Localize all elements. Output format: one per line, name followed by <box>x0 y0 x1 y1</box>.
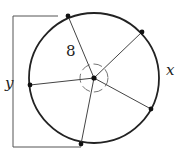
point-left <box>28 83 33 88</box>
point-top <box>66 14 71 19</box>
radius-lower-right <box>94 78 151 109</box>
arc-label: x <box>166 61 175 79</box>
point-bottom <box>79 142 84 147</box>
center-point <box>91 75 96 80</box>
bracket-label: y <box>4 74 14 92</box>
point-upper-right <box>140 30 145 35</box>
y-bracket <box>13 16 81 147</box>
point-lower-right <box>149 107 154 112</box>
radius-left <box>30 78 94 85</box>
radius-label: 8 <box>66 42 76 60</box>
radius-upper-right <box>94 32 142 78</box>
radius-bottom <box>81 78 94 144</box>
circle-diagram: 8 x y <box>0 0 183 152</box>
